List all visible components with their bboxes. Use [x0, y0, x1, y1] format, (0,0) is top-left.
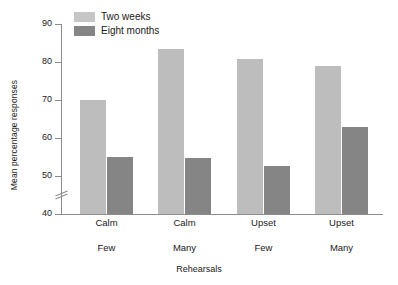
y-tick-label: 70: [20, 95, 52, 105]
legend-item-two-weeks: Two weeks: [74, 11, 159, 23]
y-tick-label: 40: [20, 209, 52, 219]
chart-legend: Two weeksEight months: [74, 11, 159, 37]
bar-two-weeks-group-3: [237, 59, 263, 214]
bar-two-weeks-group-1: [80, 100, 106, 214]
y-tick-label-text: 60: [26, 133, 52, 142]
y-tick-label: 90: [20, 19, 52, 29]
x-axis-category-label-3: Upset: [234, 218, 294, 228]
x-axis-category-labels: CalmCalmUpsetUpset: [62, 218, 383, 232]
x-axis-group-label-2: Many: [155, 243, 215, 253]
bar-eight-months-group-2: [185, 158, 211, 214]
bar-eight-months-group-4: [342, 127, 368, 214]
x-axis-category-label-1: Calm: [77, 218, 137, 228]
x-axis-group-label-3: Few: [234, 243, 294, 253]
legend-swatch-eight-months-icon: [74, 26, 95, 36]
bars-container: [62, 24, 383, 214]
y-tick-label: 60: [20, 133, 52, 143]
y-tick-label-text: 80: [26, 57, 52, 66]
bar-eight-months-group-3: [264, 166, 290, 214]
bar-two-weeks-group-2: [158, 49, 184, 214]
x-axis-title: Rehearsals: [0, 264, 398, 274]
y-tick-label-text: 50: [26, 171, 52, 180]
x-axis-group-labels: FewManyFewMany: [62, 243, 383, 257]
x-axis-line: [61, 214, 383, 215]
y-tick-label-text: 70: [26, 95, 52, 104]
legend-swatch-two-weeks-icon: [74, 12, 95, 22]
x-axis-category-label-2: Calm: [155, 218, 215, 228]
y-tick-label-text: 40: [26, 209, 52, 218]
legend-item-eight-months: Eight months: [74, 25, 159, 37]
bar-chart: Mean percentage responses 405060708090 T…: [0, 0, 398, 285]
bar-eight-months-group-1: [107, 157, 133, 214]
legend-label: Two weeks: [101, 12, 150, 22]
bar-two-weeks-group-4: [315, 66, 341, 214]
y-tick-label: 80: [20, 57, 52, 67]
y-tick-label: 50: [20, 171, 52, 181]
legend-label: Eight months: [101, 26, 159, 36]
x-axis-group-label-1: Few: [77, 243, 137, 253]
x-axis-category-label-4: Upset: [312, 218, 372, 228]
x-axis-group-label-4: Many: [312, 243, 372, 253]
y-tick-label-text: 90: [26, 19, 52, 28]
